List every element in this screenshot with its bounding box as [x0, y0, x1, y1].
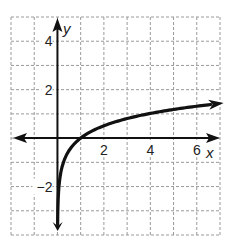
x-tick-label: 6 [193, 142, 201, 158]
y-tick-label: −2 [36, 179, 52, 195]
y-axis-label: y [62, 20, 72, 37]
x-tick-label: 4 [146, 142, 154, 158]
log-function-graph: 24642−2 x y [0, 0, 234, 239]
y-tick-label: 2 [45, 82, 53, 98]
curve-arrowheads [53, 100, 224, 231]
x-axis-label: x [205, 144, 214, 161]
grid [11, 17, 220, 235]
y-tick-label: 4 [45, 33, 53, 49]
x-tick-label: 2 [100, 142, 108, 158]
